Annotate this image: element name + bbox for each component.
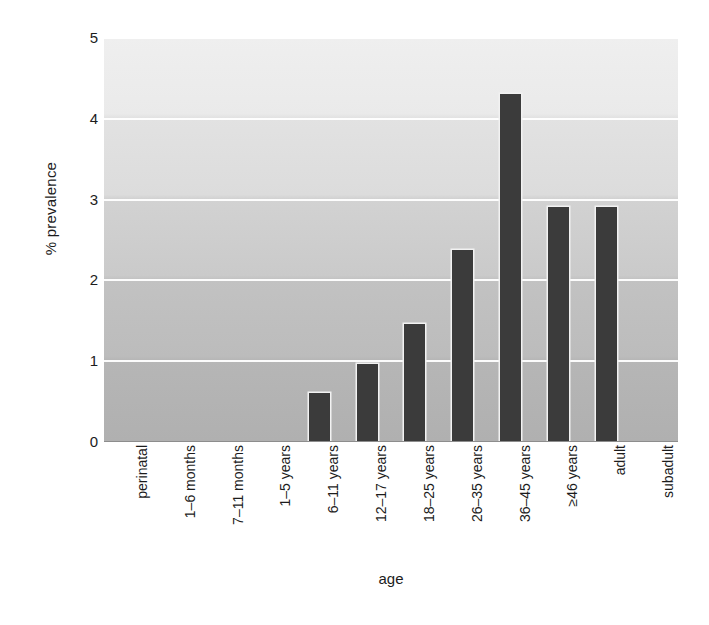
x-tick-slot: 36–45 years	[487, 445, 535, 555]
x-tick-slot: 1–5 years	[248, 445, 296, 555]
y-tick-label: 5	[62, 30, 98, 45]
x-tick-slot: 6–11 years	[295, 445, 343, 555]
x-tick-slot: ≥46 years	[535, 445, 583, 555]
x-axis-tick-labels: perinatal1–6 months7–11 months1–5 years6…	[104, 445, 678, 555]
x-tick-label: 36–45 years	[518, 445, 532, 522]
y-tick-label: 2	[62, 272, 98, 287]
y-tick-label: 4	[62, 110, 98, 125]
bar	[357, 364, 378, 441]
x-tick-label: ≥46 years	[565, 445, 579, 506]
x-tick-slot: 1–6 months	[152, 445, 200, 555]
x-tick-label: 26–35 years	[470, 445, 484, 522]
x-tick-slot: 18–25 years	[391, 445, 439, 555]
bar	[309, 393, 330, 441]
plot-area	[104, 37, 678, 441]
y-axis-label: % prevalence	[42, 89, 59, 329]
bar-chart-figure: % prevalence 012345 perinatal1–6 months7…	[0, 0, 709, 625]
bar	[452, 250, 473, 441]
x-tick-label: perinatal	[135, 445, 149, 499]
bar-series	[104, 37, 678, 441]
x-tick-slot: subadult	[630, 445, 678, 555]
x-tick-label: 1–6 months	[183, 445, 197, 518]
x-tick-label: subadult	[661, 445, 675, 498]
x-axis-label: age	[104, 570, 678, 587]
y-tick-label: 0	[62, 434, 98, 449]
x-axis-spine	[104, 441, 678, 442]
bar	[596, 207, 617, 441]
y-tick-label: 1	[62, 353, 98, 368]
bar	[500, 94, 521, 441]
x-tick-slot: 12–17 years	[343, 445, 391, 555]
x-tick-label: 1–5 years	[278, 445, 292, 506]
x-tick-slot: adult	[582, 445, 630, 555]
y-tick-label: 3	[62, 191, 98, 206]
x-tick-label: 7–11 months	[231, 445, 245, 525]
x-tick-slot: 7–11 months	[200, 445, 248, 555]
y-axis-tick-labels: 012345	[62, 0, 98, 625]
x-tick-label: 12–17 years	[374, 445, 388, 522]
x-tick-label: 6–11 years	[326, 445, 340, 513]
x-tick-label: adult	[613, 445, 627, 475]
x-tick-label: 18–25 years	[422, 445, 436, 522]
bar	[404, 324, 425, 441]
bar	[548, 207, 569, 441]
x-tick-slot: 26–35 years	[439, 445, 487, 555]
x-tick-slot: perinatal	[104, 445, 152, 555]
